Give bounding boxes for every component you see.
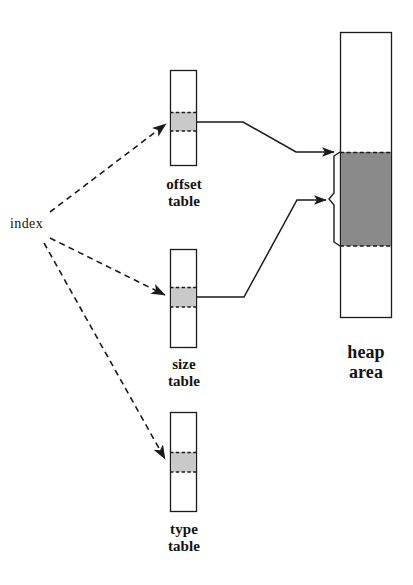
size-table-highlighted-cell: [171, 287, 196, 307]
type-table-label: type table: [143, 521, 225, 555]
offset-table-highlighted-cell: [171, 112, 196, 131]
size-table-label: size table: [143, 356, 225, 390]
memory-layout-diagram: index offset table size table type table…: [0, 0, 413, 585]
heap-allocated-block: [341, 152, 391, 246]
offset-to-heap-edge: [196, 122, 334, 152]
size-to-heap-edge: [196, 200, 326, 297]
size-table-node[interactable]: [170, 250, 197, 348]
index-edges: [44, 124, 166, 459]
index-to-size-table-edge: [50, 238, 165, 295]
type-table-node[interactable]: [170, 413, 197, 512]
type-table-highlighted-cell: [171, 452, 196, 472]
index-to-type-table-edge: [44, 243, 165, 459]
heap-area-label: heap area: [326, 342, 406, 382]
diagram-canvas: [0, 0, 413, 585]
offset-table-node[interactable]: [170, 71, 197, 166]
heap-area-node[interactable]: [340, 33, 392, 318]
offset-table-label: offset table: [143, 176, 225, 210]
heap-extent-brace: [329, 152, 340, 246]
index-label: index: [10, 216, 70, 232]
